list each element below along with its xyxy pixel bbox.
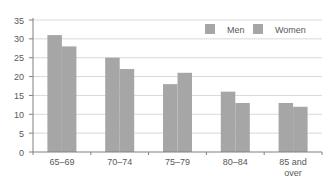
y-tick-label: 5 [19, 129, 24, 139]
legend-label-men: Men [227, 25, 245, 35]
y-tick-label: 30 [14, 34, 24, 44]
bar-chart: 0510152025303565–6970–7475–7980–8485 and… [0, 0, 334, 180]
bar-men [163, 84, 178, 152]
bar-women [120, 69, 135, 152]
x-tick-label: 65–69 [49, 157, 74, 167]
y-tick-label: 0 [19, 148, 24, 158]
x-tick-label: 75–79 [165, 157, 190, 167]
y-tick-label: 20 [14, 72, 24, 82]
bar-men [221, 92, 236, 152]
x-tick-label: 80–84 [223, 157, 248, 167]
legend-swatch-men [205, 24, 215, 34]
bar-men [105, 58, 120, 152]
bar-men [279, 103, 294, 152]
legend-swatch-women [253, 24, 263, 34]
y-tick-label: 25 [14, 53, 24, 63]
bar-women [62, 46, 77, 152]
bar-women [178, 73, 193, 152]
y-tick-label: 10 [14, 110, 24, 120]
chart-canvas: 0510152025303565–6970–7475–7980–8485 and… [0, 0, 334, 180]
x-tick-label: over [284, 168, 302, 178]
bar-women [235, 103, 250, 152]
y-tick-label: 35 [14, 16, 24, 26]
bar-men [47, 35, 62, 152]
legend-label-women: Women [275, 25, 306, 35]
y-tick-label: 15 [14, 91, 24, 101]
x-tick-label: 70–74 [107, 157, 132, 167]
x-tick-label: 85 and [279, 157, 307, 167]
bar-women [293, 107, 308, 152]
